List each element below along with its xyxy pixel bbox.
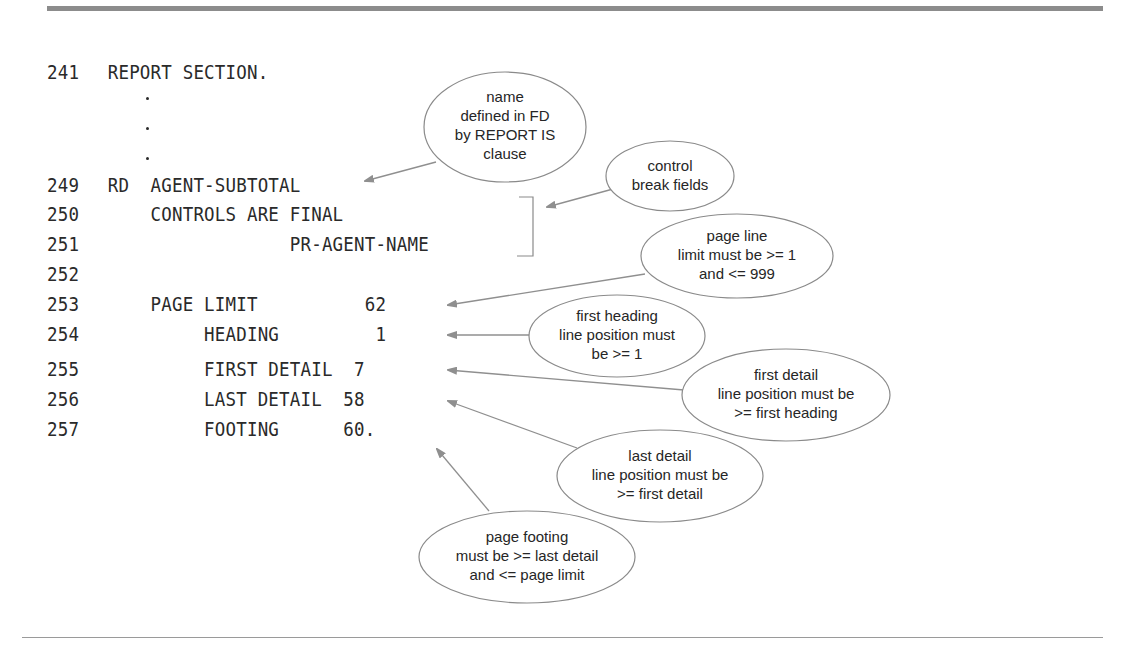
- code-line-250: 250 CONTROLS ARE FINAL: [47, 199, 343, 229]
- line-number: 250: [47, 199, 108, 229]
- line-number: 249: [47, 170, 108, 200]
- code-line-251: 251 PR-AGENT-NAME: [47, 229, 429, 259]
- code-text: LAST DETAIL 58: [108, 388, 365, 410]
- code-line-241: 241REPORT SECTION.: [47, 57, 268, 87]
- line-number: 252: [47, 259, 108, 289]
- arrow-first-detail: [448, 370, 684, 390]
- callout-page-limit: page line limit must be >= 1 and <= 999: [642, 226, 832, 283]
- arrow-control-break: [547, 189, 613, 207]
- code-text: FIRST DETAIL 7: [108, 358, 365, 380]
- arrow-report-name: [365, 162, 436, 181]
- line-number: 256: [47, 384, 108, 414]
- code-text: FOOTING 60.: [108, 418, 376, 440]
- callout-control-break: control break fields: [607, 156, 733, 194]
- arrow-page-footing: [437, 449, 489, 511]
- callout-report-name: name defined in FD by REPORT IS clause: [425, 87, 585, 163]
- arrow-last-detail: [448, 401, 577, 448]
- callout-page-footing: page footing must be >= last detail and …: [420, 527, 634, 584]
- ellipsis-dot: [146, 127, 149, 130]
- code-line-257: 257 FOOTING 60.: [47, 414, 375, 444]
- code-line-249: 249RD AGENT-SUBTOTAL: [47, 170, 300, 200]
- line-number: 257: [47, 414, 108, 444]
- code-text: CONTROLS ARE FINAL: [108, 203, 344, 225]
- code-text: PR-AGENT-NAME: [108, 233, 429, 255]
- arrow-page-limit: [448, 274, 645, 305]
- code-line-256: 256 LAST DETAIL 58: [47, 384, 365, 414]
- control-bracket: [517, 197, 533, 256]
- callout-first-detail: first detail line position must be >= fi…: [683, 365, 889, 422]
- callout-last-detail: last detail line position must be >= fir…: [558, 446, 762, 503]
- top-rule: [47, 6, 1103, 11]
- code-line-253: 253 PAGE LIMIT 62: [47, 289, 386, 319]
- callout-first-heading: first heading line position must be >= 1: [530, 306, 704, 363]
- bottom-rule: [22, 637, 1103, 638]
- code-line-252: 252: [47, 259, 108, 289]
- code-text: RD AGENT-SUBTOTAL: [108, 174, 301, 196]
- code-line-255: 255 FIRST DETAIL 7: [47, 354, 365, 384]
- code-text: REPORT SECTION.: [108, 61, 269, 83]
- line-number: 254: [47, 319, 108, 349]
- line-number: 241: [47, 57, 108, 87]
- line-number: 253: [47, 289, 108, 319]
- code-text: HEADING 1: [108, 323, 386, 345]
- line-number: 251: [47, 229, 108, 259]
- code-line-254: 254 HEADING 1: [47, 319, 386, 349]
- ellipsis-dot: [146, 157, 149, 160]
- ellipsis-dot: [146, 97, 149, 100]
- code-text: PAGE LIMIT 62: [108, 293, 386, 315]
- line-number: 255: [47, 354, 108, 384]
